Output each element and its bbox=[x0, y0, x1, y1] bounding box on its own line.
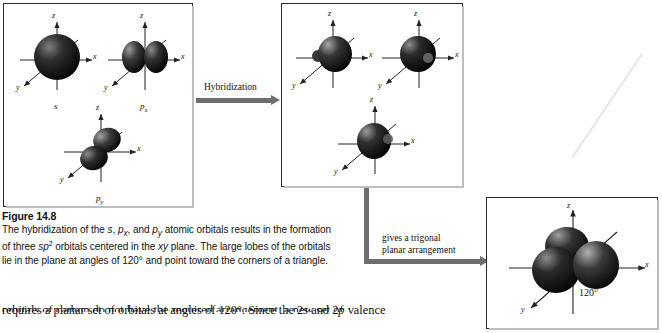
axis-label-z: z bbox=[370, 96, 373, 104]
hybrid-orbital-1: z x y bbox=[288, 10, 378, 100]
body-line-2: orbitals of carbon do not have the requi… bbox=[2, 303, 344, 312]
hybridization-arrow-label: Hybridization bbox=[204, 81, 257, 93]
axis-label-y: y bbox=[292, 82, 296, 90]
axis-label-x: x bbox=[645, 261, 649, 269]
axis-label-z: z bbox=[414, 10, 417, 18]
caption-line-1: The hybridization of the s, px, and py a… bbox=[2, 224, 287, 235]
axes-px bbox=[100, 12, 190, 102]
hybrid-orbital-3: z x y bbox=[330, 96, 420, 186]
axis-label-y: y bbox=[60, 176, 64, 184]
caption-line-4: toward the corners of a triangle. bbox=[189, 255, 328, 266]
trigonal-arrow-label-line1: gives a trigonal bbox=[382, 232, 441, 244]
atomic-orbitals-panel: z x y s bbox=[3, 3, 193, 207]
axis-label-y: y bbox=[378, 82, 382, 90]
axis-label-z: z bbox=[52, 12, 55, 20]
scan-streak-artifact bbox=[566, 52, 656, 160]
axis-label-x: x bbox=[369, 51, 373, 59]
axes-s bbox=[12, 12, 102, 102]
axis-label-x: x bbox=[411, 137, 415, 145]
axis-label-x: x bbox=[93, 53, 97, 61]
orbital-s: z x y bbox=[12, 12, 102, 102]
figure-caption: Figure 14.8 The hybridization of the s, … bbox=[2, 210, 342, 267]
axis-label-y: y bbox=[104, 84, 108, 92]
axis-label-z: z bbox=[96, 104, 99, 112]
axes-hybrid-3 bbox=[330, 96, 420, 186]
hybrid-orbital-2: z x y bbox=[374, 10, 464, 100]
axes-hybrid-2 bbox=[374, 10, 464, 100]
figure-number: Figure 14.8 bbox=[2, 210, 342, 222]
axis-label-x: x bbox=[181, 53, 185, 61]
trigonal-arrow-vertical-shaft bbox=[364, 188, 369, 264]
axis-label-x: x bbox=[137, 145, 141, 153]
sp2-hybrid-orbitals-panel: z x y z x y bbox=[281, 3, 463, 187]
hybridization-arrow-shaft bbox=[196, 98, 272, 103]
bond-angle-label: 120° bbox=[579, 288, 598, 298]
orbital-label-py-sub: y bbox=[101, 198, 104, 205]
orbital-px: z x y bbox=[100, 12, 190, 102]
axis-label-y: y bbox=[16, 84, 20, 92]
axis-label-z: z bbox=[140, 12, 143, 20]
orbital-label-py: py bbox=[96, 194, 103, 205]
body-line-2-clip: orbitals of carbon do not have the requi… bbox=[2, 302, 662, 312]
axis-label-z: z bbox=[328, 10, 331, 18]
axes-py bbox=[56, 104, 146, 194]
orbital-py: z x y bbox=[56, 104, 146, 194]
axis-label-y: y bbox=[334, 168, 338, 176]
axis-label-z: z bbox=[567, 202, 570, 210]
trigonal-arrow-label-line2: planar arrangement bbox=[382, 244, 456, 256]
axes-hybrid-1 bbox=[288, 10, 378, 100]
hybridization-arrow-head bbox=[271, 95, 280, 105]
figure-caption-text: The hybridization of the s, px, and py a… bbox=[2, 223, 342, 267]
trigonal-arrow-horizontal-shaft bbox=[364, 259, 481, 264]
axis-label-x: x bbox=[455, 51, 459, 59]
